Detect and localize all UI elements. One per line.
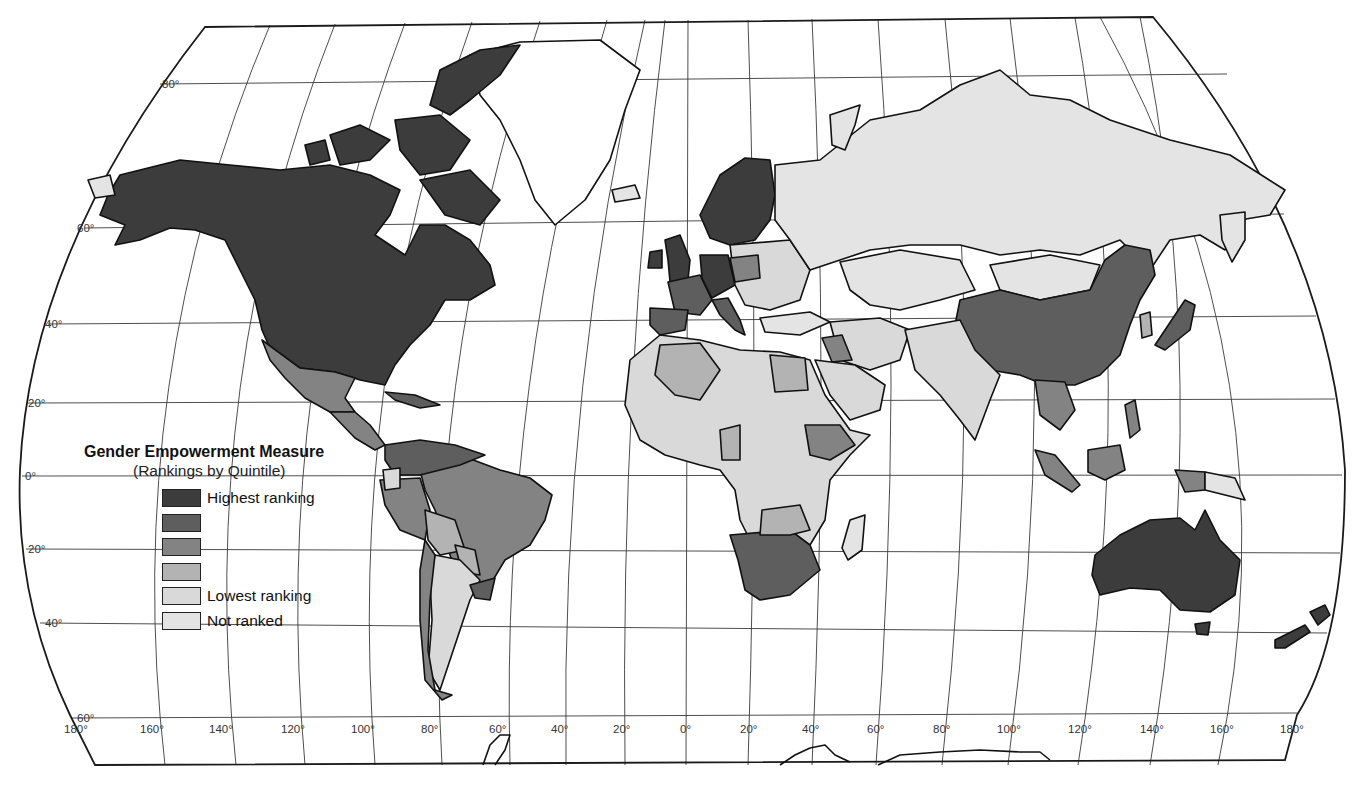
svg-text:80°: 80° — [162, 78, 179, 90]
papua-new-guinea — [1205, 472, 1245, 500]
legend-swatch — [162, 538, 201, 556]
longitude-labels: 180° 160° 140° 120° 100° 80° 60° 40° 20°… — [64, 723, 1304, 735]
legend-item-lowest: Lowest ranking — [162, 584, 374, 609]
ireland — [648, 250, 662, 268]
iberia — [650, 308, 688, 335]
united-kingdom — [665, 235, 690, 282]
svg-text:40°: 40° — [551, 723, 568, 735]
svg-text:80°: 80° — [933, 723, 950, 735]
zambia-zimbabwe — [760, 505, 810, 535]
central-asia — [840, 250, 975, 310]
svg-text:100°: 100° — [351, 723, 375, 735]
legend-swatch — [162, 514, 201, 532]
svg-text:160°: 160° — [1210, 723, 1234, 735]
world-map: 80° 60° 40° 20° 0° 20° 40° 60° 180° 160°… — [0, 0, 1364, 785]
legend-swatch — [162, 612, 201, 630]
legend: Gender Empowerment Measure (Rankings by … — [84, 443, 374, 633]
japan — [1155, 300, 1195, 350]
svg-text:40°: 40° — [802, 723, 819, 735]
svg-text:40°: 40° — [45, 318, 62, 330]
svg-text:160°: 160° — [140, 723, 164, 735]
svg-text:20°: 20° — [28, 543, 45, 555]
svg-text:60°: 60° — [867, 723, 884, 735]
kamchatka — [1220, 212, 1245, 262]
legend-swatch — [162, 563, 201, 581]
legend-item-quintile-2 — [162, 511, 374, 536]
svg-text:40°: 40° — [45, 617, 62, 629]
svg-text:100°: 100° — [997, 723, 1021, 735]
svg-text:180°: 180° — [1280, 723, 1304, 735]
ecuador — [383, 468, 400, 490]
madagascar — [842, 515, 865, 560]
legend-item-not-ranked: Not ranked — [162, 609, 374, 634]
legend-item-highest: Highest ranking — [162, 486, 374, 511]
svg-text:80°: 80° — [421, 723, 438, 735]
egypt — [770, 355, 808, 392]
legend-item-quintile-4 — [162, 560, 374, 585]
turkey — [760, 312, 830, 335]
svg-text:180°: 180° — [64, 723, 88, 735]
svg-text:20°: 20° — [740, 723, 757, 735]
russia — [775, 70, 1285, 270]
svg-text:140°: 140° — [209, 723, 233, 735]
legend-item-quintile-3 — [162, 535, 374, 560]
argentina — [428, 555, 480, 690]
new-zealand — [1310, 605, 1330, 625]
tasmania — [1195, 622, 1210, 635]
svg-text:20°: 20° — [613, 723, 630, 735]
legend-items: Highest ranking Lowest ranking Not ranke… — [162, 486, 374, 633]
svg-text:120°: 120° — [1068, 723, 1092, 735]
poland — [730, 255, 760, 282]
svg-text:60°: 60° — [77, 222, 94, 234]
italy — [712, 298, 745, 335]
svg-text:140°: 140° — [1140, 723, 1164, 735]
cameroon — [720, 425, 740, 460]
korea — [1140, 312, 1152, 338]
svg-text:0°: 0° — [25, 470, 36, 482]
legend-swatch — [162, 489, 201, 507]
svg-text:20°: 20° — [28, 397, 45, 409]
legend-subtitle: (Rankings by Quintile) — [133, 462, 374, 480]
legend-swatch — [162, 587, 201, 605]
australia — [1092, 510, 1240, 612]
philippines — [1125, 400, 1140, 438]
southeast-asia — [1035, 380, 1075, 430]
svg-text:0°: 0° — [680, 723, 691, 735]
svg-text:60°: 60° — [489, 723, 506, 735]
iceland — [612, 185, 640, 202]
svg-text:120°: 120° — [281, 723, 305, 735]
sumatra — [1035, 450, 1080, 492]
legend-title: Gender Empowerment Measure — [84, 443, 374, 461]
new-guinea — [1175, 470, 1205, 492]
scandinavia — [700, 158, 775, 245]
